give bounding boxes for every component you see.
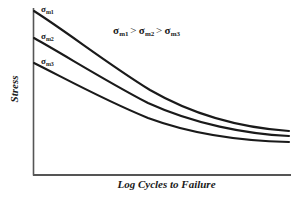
curve-label-sigma-m2: σm2 [41,31,54,41]
curve-label-sigma-m1: σm1 [41,4,54,14]
ineq-subscript-2: m2 [145,30,154,38]
x-axis-label: Log Cycles to Failure [0,178,297,190]
sigma-subscript-1: m1 [46,9,54,15]
sigma-subscript-3: m3 [46,61,54,67]
ineq-subscript-3: m3 [171,30,180,38]
curve-label-sigma-m3: σm3 [41,56,54,66]
greater-than-1: > [128,24,139,36]
curve-sigma-m3 [34,63,289,142]
y-axis-label: Stress [8,59,20,119]
ineq-sigma-3: σ [165,24,171,36]
inequality-annotation: σm1>σm2>σm3 [113,24,180,36]
greater-than-2: > [154,24,165,36]
ineq-subscript-1: m1 [119,30,128,38]
sigma-subscript-2: m2 [46,36,54,42]
curve-sigma-m2 [34,38,289,136]
fatigue-sn-curve-figure: σm1 σm2 σm3 σm1>σm2>σm3 Log Cycles to Fa… [0,0,297,202]
